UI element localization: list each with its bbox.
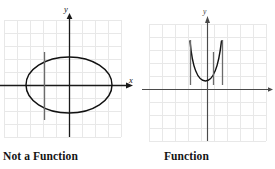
- x-axis: [0, 83, 133, 89]
- vertical-line-test-figure: y x Not a Function: [0, 0, 275, 169]
- panel-not-a-function: y x Not a Function: [0, 0, 138, 169]
- y-axis-label: y: [202, 7, 207, 16]
- grid-lines: [4, 20, 121, 137]
- caption-function: Function: [164, 150, 209, 162]
- y-axis-label: y: [63, 4, 68, 14]
- parabola-curve: [190, 41, 222, 81]
- caption-not-a-function: Not a Function: [3, 150, 78, 162]
- x-axis-label: x: [128, 75, 133, 85]
- panel-function: y Function: [137, 0, 275, 169]
- graph-function: y: [137, 0, 275, 169]
- graph-not-a-function: y x: [0, 0, 138, 169]
- y-axis: [67, 13, 73, 137]
- y-axis: [205, 16, 210, 141]
